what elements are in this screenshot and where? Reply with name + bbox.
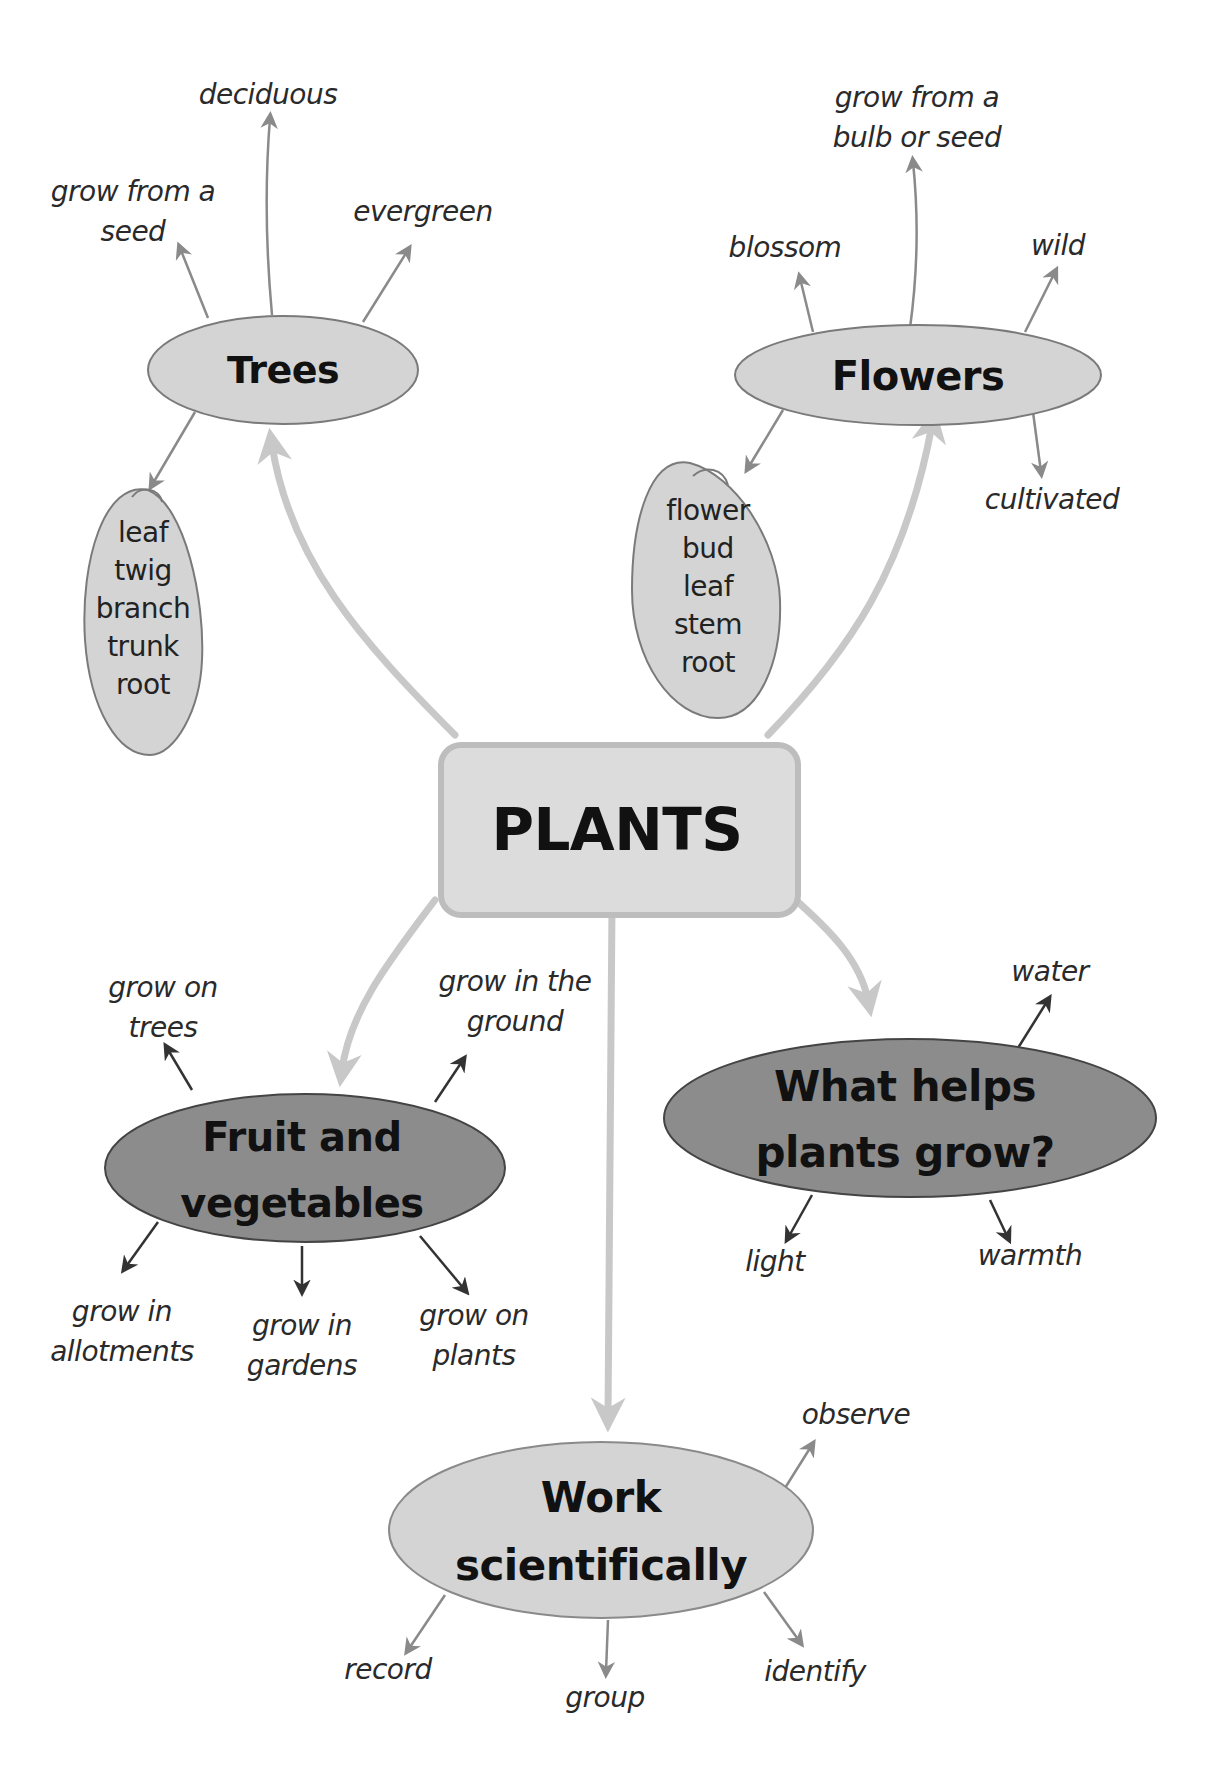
fruit-branch-in-ground: grow in the ground [438, 962, 591, 1042]
flowers-part: bud [666, 530, 749, 568]
flowers-node-title: Flowers [832, 353, 1005, 399]
main-connectors [272, 425, 932, 1415]
flowers-branch-blossom: blossom [729, 228, 842, 268]
helps-node-title: What helps plants grow? [755, 1054, 1054, 1186]
trees-part: trunk [96, 628, 190, 666]
work-node-title: Work scientifically [455, 1464, 747, 1600]
helps-branch-warmth: warmth [978, 1236, 1083, 1276]
trees-branch-grow-from-seed: grow from a seed [51, 172, 216, 252]
flowers-parts-list: flower bud leaf stem root [666, 492, 749, 682]
trees-part: root [96, 666, 190, 704]
fruit-branch-on-trees: grow on trees [108, 968, 218, 1048]
work-branch-group: group [565, 1678, 644, 1718]
trees-branch-evergreen: evergreen [353, 192, 493, 232]
trees-parts-list: leaf twig branch trunk root [96, 514, 190, 704]
helps-branch-water: water [1011, 952, 1088, 992]
fruit-node-title: Fruit and vegetables [180, 1104, 423, 1236]
trees-branch-deciduous: deciduous [199, 75, 338, 115]
flowers-branch-wild: wild [1031, 226, 1085, 266]
flowers-part: root [666, 644, 749, 682]
work-branch-identify: identify [764, 1652, 866, 1692]
connector-plants-work [608, 905, 612, 1415]
helps-branch-light: light [745, 1242, 805, 1282]
flowers-branch-cultivated: cultivated [985, 480, 1119, 520]
connector-plants-helps [790, 895, 868, 1000]
flowers-part: flower [666, 492, 749, 530]
connector-plants-trees [272, 445, 455, 735]
trees-part: twig [96, 552, 190, 590]
flowers-branch-bulb-or-seed: grow from a bulb or seed [833, 78, 1001, 158]
fruit-branch-gardens: grow in gardens [247, 1306, 357, 1386]
flowers-part: leaf [666, 568, 749, 606]
fruit-branch-on-plants: grow on plants [419, 1296, 529, 1376]
plants-mind-map: PLANTS Trees deciduous grow from a seed … [0, 0, 1217, 1787]
fruit-branch-allotments: grow in allotments [50, 1292, 194, 1372]
work-branch-observe: observe [802, 1395, 911, 1435]
trees-part: branch [96, 590, 190, 628]
connector-plants-flowers [768, 425, 932, 735]
work-branch-record: record [344, 1650, 432, 1690]
plants-center-title: PLANTS [491, 796, 742, 864]
connector-plants-fruit [342, 900, 435, 1070]
flowers-part: stem [666, 606, 749, 644]
trees-part: leaf [96, 514, 190, 552]
trees-node-title: Trees [227, 348, 339, 392]
